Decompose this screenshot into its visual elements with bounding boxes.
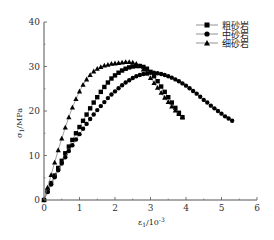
x-title-exponent: -3: [159, 216, 165, 223]
data-point: [74, 137, 78, 141]
x-tick-label: 0: [41, 203, 47, 213]
x-tick-label: 2: [112, 203, 118, 213]
data-point: [109, 92, 113, 96]
data-point: [56, 147, 61, 152]
circle-marker-icon: [204, 31, 209, 36]
data-point: [77, 89, 82, 94]
data-point: [106, 80, 110, 84]
data-point: [73, 96, 78, 101]
x-tick-label: 3: [148, 203, 154, 213]
data-point: [88, 117, 92, 121]
data-point: [80, 82, 85, 87]
data-point: [56, 168, 60, 172]
legend-item-fine: 细砂岩: [196, 38, 249, 49]
data-point: [163, 90, 167, 94]
data-point: [95, 95, 99, 99]
data-point: [198, 95, 202, 99]
data-point: [202, 98, 206, 102]
data-point: [63, 125, 68, 130]
data-point: [92, 100, 96, 104]
x-tick-label: 1: [77, 203, 83, 213]
data-point: [120, 83, 124, 87]
x-tick-label: 5: [219, 203, 225, 213]
y-tick-label: 40: [29, 17, 41, 27]
data-point: [59, 136, 64, 141]
x-axis-title: ε1/10-3: [138, 216, 165, 228]
data-point: [60, 161, 64, 165]
legend-label: 细砂岩: [222, 38, 249, 49]
series-line: [44, 62, 183, 200]
data-point: [99, 104, 103, 108]
y-title-unit: /MPa: [15, 108, 24, 129]
data-point: [194, 91, 198, 95]
data-point: [77, 132, 81, 136]
data-point: [219, 111, 223, 115]
data-point: [187, 86, 191, 90]
data-point: [81, 127, 85, 131]
data-point: [52, 160, 57, 165]
data-point: [52, 175, 56, 179]
data-point: [212, 106, 216, 110]
y-tick-label: 0: [34, 195, 40, 205]
plot-series: [41, 59, 234, 202]
data-point: [155, 79, 159, 83]
data-point: [95, 108, 99, 112]
data-point: [230, 119, 234, 123]
data-point: [84, 122, 88, 126]
x-tick-label: 6: [254, 203, 260, 213]
data-point: [205, 100, 209, 104]
data-point: [106, 96, 110, 100]
square-marker-icon: [205, 23, 210, 28]
data-point: [67, 149, 71, 153]
data-point: [191, 89, 195, 93]
data-point: [84, 112, 88, 116]
stress-strain-chart: 0123456 010203040 ε1/10-3 σ1/MPa 粗砂岩 中砂岩…: [0, 0, 274, 240]
data-point: [66, 114, 71, 119]
x-tick-label: 4: [183, 203, 189, 213]
data-point: [102, 85, 106, 89]
y-tick-label: 30: [29, 62, 41, 72]
data-point: [70, 105, 75, 110]
legend: 粗砂岩 中砂岩 细砂岩: [196, 20, 249, 49]
series-line: [44, 73, 232, 200]
x-title-unit: /10: [146, 218, 159, 227]
data-point: [113, 89, 117, 93]
data-point: [102, 100, 106, 104]
data-point: [92, 112, 96, 116]
data-point: [88, 106, 92, 110]
data-point: [81, 119, 85, 123]
data-point: [159, 84, 163, 88]
data-point: [216, 109, 220, 113]
series-circle: [42, 71, 235, 203]
data-point: [99, 90, 103, 94]
y-tick-label: 10: [29, 151, 41, 161]
data-point: [116, 86, 120, 90]
data-point: [63, 155, 67, 159]
data-point: [70, 143, 74, 147]
x-ticks: 0123456: [41, 197, 260, 213]
y-axis-title: σ1/MPa: [15, 108, 25, 138]
y-tick-label: 20: [29, 106, 41, 116]
data-point: [209, 103, 213, 107]
data-point: [184, 83, 188, 87]
data-point: [49, 182, 53, 186]
